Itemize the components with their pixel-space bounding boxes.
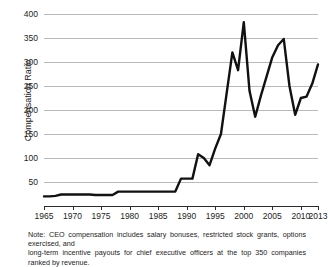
chart-footnote: Note: CEO compensation includes salary b… [28, 230, 306, 267]
x-axis-tick-mark [187, 206, 188, 210]
footnote-line-1: Note: CEO compensation includes salary b… [28, 230, 306, 248]
x-axis-tick-mark [101, 206, 102, 210]
series-line [44, 22, 318, 196]
x-axis-tick-mark [158, 206, 159, 210]
x-axis-tick-label: 2013 [298, 212, 328, 221]
x-axis-tick-mark [272, 206, 273, 210]
x-axis-tick-mark [215, 206, 216, 210]
x-axis-tick-mark [244, 206, 245, 210]
x-axis-tick-mark [44, 206, 45, 210]
x-axis-tick-mark [130, 206, 131, 210]
footnote-line-2: long-term incentive payouts for chief ex… [28, 248, 306, 266]
x-axis-tick-mark [73, 206, 74, 210]
x-axis-tick-mark [318, 206, 319, 210]
x-axis-tick-mark [301, 206, 302, 210]
